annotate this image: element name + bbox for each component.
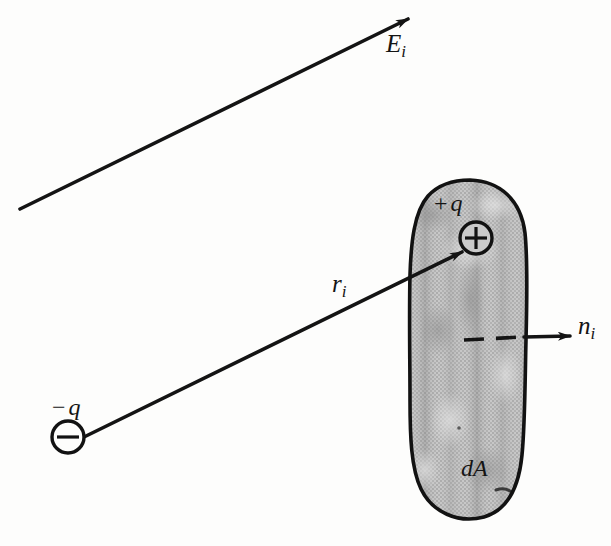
field-vector-label: Ei [386, 31, 406, 60]
positive-charge-symbol: q [451, 190, 463, 216]
radius-vector-arrow [84, 252, 462, 437]
normal-vector-symbol: n [578, 312, 591, 339]
negative-charge-marker [52, 421, 84, 453]
area-element-label: dA [461, 456, 488, 480]
positive-charge-label: +q [434, 191, 463, 215]
positive-charge-sign: + [434, 190, 451, 216]
field-vector-arrow [20, 19, 408, 209]
negative-charge-sign: − [52, 394, 69, 420]
radius-vector-symbol: r [332, 270, 342, 297]
field-vector-symbol: E [386, 30, 401, 57]
normal-vector-subscript: i [591, 324, 596, 343]
positive-charge-marker [460, 222, 492, 254]
normal-vector-arrow [524, 336, 570, 337]
radius-vector-label: ri [332, 271, 347, 300]
radius-vector-subscript: i [342, 282, 347, 301]
physics-figure: Ei ri ni +q −q dA [0, 0, 611, 546]
figure-canvas [0, 0, 611, 546]
normal-vector-label: ni [578, 313, 595, 342]
negative-charge-label: −q [52, 395, 81, 419]
field-vector-subscript: i [401, 42, 406, 61]
negative-charge-symbol: q [69, 394, 81, 420]
